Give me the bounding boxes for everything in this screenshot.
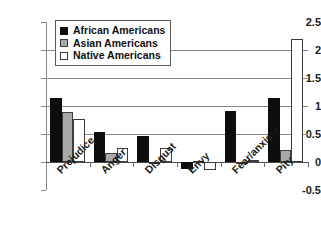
x-axis-tick-mark xyxy=(177,162,178,167)
x-axis-tick-mark xyxy=(264,162,265,167)
bar xyxy=(50,98,62,162)
legend-swatch-icon xyxy=(60,52,68,60)
legend-item: Asian Americans xyxy=(60,37,165,49)
legend-label: Asian Americans xyxy=(73,38,158,49)
legend-item: Native Americans xyxy=(60,50,165,62)
legend: African AmericansAsian AmericansNative A… xyxy=(55,20,171,66)
legend-label: African Americans xyxy=(73,25,165,36)
bar-chart: 2.521.510.50-0.5 PrejudiceAngerDisgustEn… xyxy=(0,0,321,236)
bar xyxy=(137,136,149,162)
legend-item: African Americans xyxy=(60,25,165,37)
x-axis-tick-mark xyxy=(133,162,134,167)
gridline xyxy=(46,78,308,79)
legend-swatch-icon xyxy=(60,27,68,35)
bar xyxy=(225,111,237,162)
bar xyxy=(291,39,303,162)
x-axis-tick-mark xyxy=(90,162,91,167)
legend-swatch-icon xyxy=(60,39,68,47)
x-axis-tick-mark xyxy=(221,162,222,167)
y-axis-tick-mark xyxy=(41,190,46,191)
bar xyxy=(94,132,106,162)
x-axis-tick-mark xyxy=(308,162,309,167)
legend-label: Native Americans xyxy=(73,50,161,61)
